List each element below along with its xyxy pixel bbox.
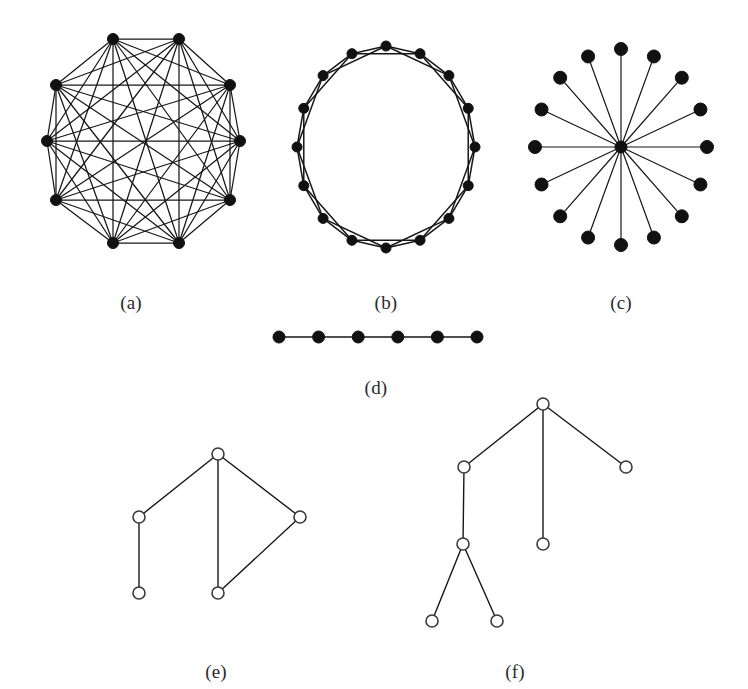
graph-node-c bbox=[647, 231, 660, 244]
edges-layer bbox=[47, 39, 707, 621]
graph-node-f bbox=[457, 538, 469, 550]
graph-node-c bbox=[615, 239, 628, 252]
caption-c: (c) bbox=[610, 292, 632, 314]
graph-node-c bbox=[647, 50, 660, 63]
graph-node-d bbox=[392, 331, 404, 343]
graph-edge-a bbox=[56, 39, 113, 200]
graph-node-e bbox=[294, 511, 306, 523]
graph-edge-a bbox=[56, 200, 113, 243]
graph-node-c bbox=[535, 178, 548, 191]
graph-node-b bbox=[444, 213, 454, 223]
graph-edge-a bbox=[47, 141, 56, 200]
graph-edge-b bbox=[304, 186, 352, 241]
graph-node-d bbox=[471, 331, 483, 343]
graph-node-b bbox=[415, 235, 425, 245]
graph-edge-f bbox=[432, 544, 463, 621]
graph-node-a bbox=[108, 34, 119, 45]
graph-node-f bbox=[620, 461, 632, 473]
graph-edge-f bbox=[464, 404, 543, 467]
graph-edge-c bbox=[560, 78, 621, 147]
graph-node-a bbox=[225, 80, 236, 91]
graph-edge-c bbox=[621, 78, 682, 147]
graph-edge-a bbox=[47, 85, 56, 141]
graph-node-c bbox=[694, 178, 707, 191]
graph-node-a bbox=[235, 136, 246, 147]
graph-node-a bbox=[174, 34, 185, 45]
graph-node-c bbox=[675, 71, 688, 84]
graph-node-f bbox=[458, 461, 470, 473]
graph-node-c bbox=[694, 103, 707, 116]
graph-node-d bbox=[273, 331, 285, 343]
graph-node-e bbox=[212, 448, 224, 460]
graph-node-b bbox=[292, 142, 302, 152]
caption-f: (f) bbox=[505, 661, 525, 683]
graph-node-d bbox=[313, 331, 325, 343]
graph-node-d bbox=[352, 331, 364, 343]
graph-node-c bbox=[582, 231, 595, 244]
figure-root: (a) (b) (c) (d) (e) (f) bbox=[0, 0, 748, 689]
graph-node-c bbox=[529, 141, 542, 154]
graph-node-b bbox=[347, 235, 357, 245]
graph-node-b bbox=[381, 41, 391, 51]
graph-node-b bbox=[347, 49, 357, 59]
graph-node-a bbox=[42, 136, 53, 147]
graph-node-b bbox=[299, 103, 309, 113]
graph-edge-a bbox=[56, 85, 113, 243]
graph-edge-b bbox=[420, 186, 468, 241]
graph-node-b bbox=[470, 142, 480, 152]
graph-node-f bbox=[537, 398, 549, 410]
graph-node-d bbox=[431, 331, 443, 343]
graph-node-b bbox=[318, 213, 328, 223]
graph-edge-a bbox=[179, 85, 230, 243]
graph-edge-f bbox=[463, 467, 464, 544]
graph-edge-a bbox=[56, 85, 179, 243]
graph-node-e bbox=[212, 587, 224, 599]
graph-edge-b bbox=[468, 108, 475, 147]
caption-a: (a) bbox=[120, 292, 142, 314]
graph-edge-c bbox=[560, 147, 621, 216]
graph-node-e bbox=[133, 587, 145, 599]
graph-node-a bbox=[51, 195, 62, 206]
graph-node-f bbox=[491, 615, 503, 627]
graph-node-b bbox=[299, 181, 309, 191]
graph-edge-c bbox=[621, 147, 682, 216]
caption-d: (d) bbox=[365, 377, 388, 399]
graph-node-a bbox=[174, 238, 185, 249]
caption-e: (e) bbox=[205, 661, 227, 683]
graph-node-e bbox=[133, 511, 145, 523]
graph-node-c-hub bbox=[615, 141, 627, 153]
graph-node-b bbox=[415, 49, 425, 59]
graph-edge-f bbox=[463, 544, 497, 621]
graph-node-c bbox=[701, 141, 714, 154]
graph-edge-b bbox=[468, 147, 475, 186]
graph-edge-b bbox=[297, 147, 304, 186]
graph-edge-b bbox=[297, 108, 304, 147]
graph-node-a bbox=[225, 195, 236, 206]
graph-edge-b bbox=[304, 54, 352, 109]
graph-node-f bbox=[426, 615, 438, 627]
graph-node-a bbox=[108, 238, 119, 249]
graph-node-c bbox=[675, 210, 688, 223]
graph-edge-a bbox=[47, 141, 113, 243]
graph-node-c bbox=[554, 71, 567, 84]
graph-edge-b bbox=[420, 54, 468, 109]
graph-edge-e bbox=[218, 517, 300, 593]
caption-b: (b) bbox=[375, 292, 398, 314]
graph-edge-e bbox=[218, 454, 300, 517]
graph-edge-e bbox=[139, 454, 218, 517]
graph-node-b bbox=[463, 181, 473, 191]
graph-node-c bbox=[554, 210, 567, 223]
graph-node-f bbox=[537, 538, 549, 550]
graph-node-a bbox=[51, 80, 62, 91]
graph-node-b bbox=[444, 71, 454, 81]
graph-figure-canvas bbox=[0, 0, 748, 689]
graph-node-c bbox=[615, 43, 628, 56]
graph-edge-a bbox=[179, 200, 230, 243]
graph-node-b bbox=[463, 103, 473, 113]
graph-node-b bbox=[381, 243, 391, 253]
graph-node-c bbox=[535, 103, 548, 116]
graph-edge-a bbox=[56, 141, 240, 200]
graph-edge-f bbox=[543, 404, 626, 467]
graph-node-c bbox=[582, 50, 595, 63]
graph-node-b bbox=[318, 71, 328, 81]
